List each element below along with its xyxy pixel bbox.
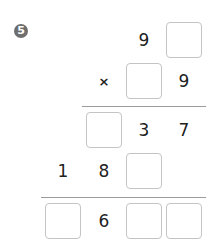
multiplier-ones-digit: 9 (166, 63, 202, 99)
result-ones-blank-box[interactable] (166, 203, 202, 239)
partial1-hundreds-blank-box[interactable] (86, 112, 122, 148)
partial1-tens-digit: 3 (126, 112, 162, 148)
result-thousands-blank-box[interactable] (45, 203, 81, 239)
multiplicand-tens-digit: 9 (126, 22, 162, 58)
result-tens-blank-box[interactable] (126, 203, 162, 239)
problem-number-badge: 5 (14, 24, 28, 38)
result-hundreds-digit: 6 (86, 203, 122, 239)
divider-line-2 (41, 197, 206, 198)
partial2-hundreds-digit: 8 (86, 153, 122, 189)
partial1-ones-digit: 7 (166, 112, 202, 148)
divider-line-1 (82, 106, 206, 107)
multiplicand-ones-blank-box[interactable] (166, 22, 202, 58)
multiply-operator: × (86, 63, 122, 99)
multiplier-tens-blank-box[interactable] (126, 63, 162, 99)
partial2-thousands-digit: 1 (45, 153, 81, 189)
partial2-tens-blank-box[interactable] (126, 153, 162, 189)
